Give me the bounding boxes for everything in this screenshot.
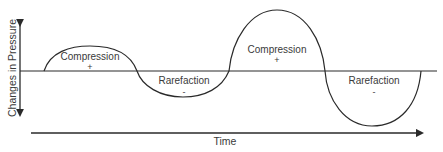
region-label-rarefaction-2: Rarefaction: [348, 75, 399, 86]
region-sign-compression-1: +: [87, 62, 92, 72]
region-label-compression-2: Compression: [248, 44, 307, 55]
pressure-wave-diagram: Changes in Pressure Time Compression + R…: [0, 0, 443, 152]
x-axis-label: Time: [214, 135, 237, 147]
region-sign-rarefaction-1: -: [183, 87, 186, 97]
region-label-rarefaction-1: Rarefaction: [158, 75, 209, 86]
region-sign-rarefaction-2: -: [373, 87, 376, 97]
y-axis-label: Changes in Pressure: [6, 19, 18, 117]
region-sign-compression-2: +: [274, 55, 279, 65]
pressure-waveform: [44, 10, 421, 126]
region-label-compression-1: Compression: [61, 51, 120, 62]
